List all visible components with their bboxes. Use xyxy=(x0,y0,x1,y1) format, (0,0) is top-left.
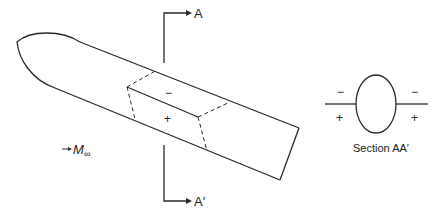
nose-outline xyxy=(17,33,80,88)
section-caption: Section AA′ xyxy=(353,142,409,154)
lower-surface-sign: + xyxy=(164,112,171,126)
body-top-edge xyxy=(80,42,299,128)
panel-dash-front-left xyxy=(127,87,135,119)
body-bottom-edge xyxy=(55,88,280,180)
panel-ridge-edge xyxy=(127,87,198,117)
body-base-edge xyxy=(280,128,299,180)
section-ellipse xyxy=(356,75,396,133)
section-left-lower-sign: + xyxy=(336,111,343,125)
section-right-lower-sign: + xyxy=(411,111,418,125)
upper-surface-sign: − xyxy=(165,86,172,100)
section-right-upper-sign: − xyxy=(411,85,418,99)
body-diagram: A A′ − + M ∞ − + − + Section AA′ xyxy=(0,0,443,212)
section-line-top xyxy=(164,13,186,63)
arrow-head-icon xyxy=(186,198,192,204)
section-label-a-prime: A′ xyxy=(194,194,206,209)
mach-subscript: ∞ xyxy=(84,149,90,159)
section-line-bottom xyxy=(164,145,186,201)
section-label-a: A xyxy=(194,6,203,21)
panel-dash-top-right xyxy=(198,103,228,117)
panel-dash-front-right xyxy=(198,117,207,151)
freestream-arrow-head-icon xyxy=(68,147,72,151)
section-left-upper-sign: − xyxy=(337,85,344,99)
arrow-head-icon xyxy=(186,10,192,16)
mach-label: M xyxy=(73,142,84,157)
panel-dash-top-left xyxy=(127,70,157,87)
